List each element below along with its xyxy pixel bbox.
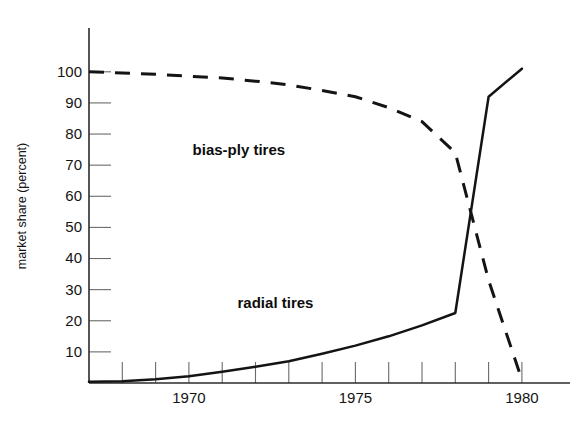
series-annotation: bias-ply tires <box>193 141 286 158</box>
x-axis-tick-labels: 197019751980 <box>172 389 538 406</box>
y-tick-label: 90 <box>65 94 82 111</box>
y-tick-label: 100 <box>57 63 82 80</box>
line-chart: 102030405060708090100 197019751980 bias-… <box>0 0 586 430</box>
y-tick-label: 40 <box>65 249 82 266</box>
x-tick-label: 1975 <box>339 389 372 406</box>
x-tick-label: 1980 <box>505 389 538 406</box>
chart-container: 102030405060708090100 197019751980 bias-… <box>0 0 586 430</box>
y-axis-ticks <box>89 72 111 352</box>
series-annotations-group: bias-ply tiresradial tires <box>193 141 314 310</box>
data-series-group <box>89 69 522 382</box>
y-tick-label: 10 <box>65 343 82 360</box>
y-tick-label: 80 <box>65 125 82 142</box>
x-axis-ticks <box>122 362 522 383</box>
series-line-radial-tires <box>89 69 522 382</box>
y-tick-label: 30 <box>65 281 82 298</box>
series-annotation: radial tires <box>238 294 314 311</box>
y-tick-label: 60 <box>65 187 82 204</box>
y-axis-title: market share (percent) <box>15 143 29 269</box>
y-tick-label: 20 <box>65 312 82 329</box>
x-tick-label: 1970 <box>172 389 205 406</box>
series-line-bias-ply-tires <box>89 72 522 380</box>
y-axis-tick-labels: 102030405060708090100 <box>57 63 82 360</box>
y-tick-label: 70 <box>65 156 82 173</box>
y-tick-label: 50 <box>65 218 82 235</box>
